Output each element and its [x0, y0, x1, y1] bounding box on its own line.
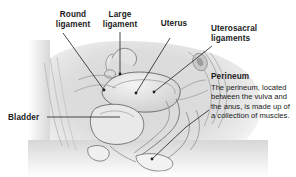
label-uterus: Uterus	[150, 19, 198, 29]
callout-body-perineum: The perineum, located between the vulva …	[211, 83, 295, 121]
label-bladder: Bladder	[8, 113, 39, 123]
illustration-figure: Round ligament Large ligament Uterus Ute…	[0, 0, 296, 177]
label-uterosacral-ligaments: Uterosacral ligaments	[211, 24, 293, 43]
label-large-ligament: Large ligament	[92, 10, 148, 29]
callout-heading-perineum: Perineum	[211, 72, 249, 82]
